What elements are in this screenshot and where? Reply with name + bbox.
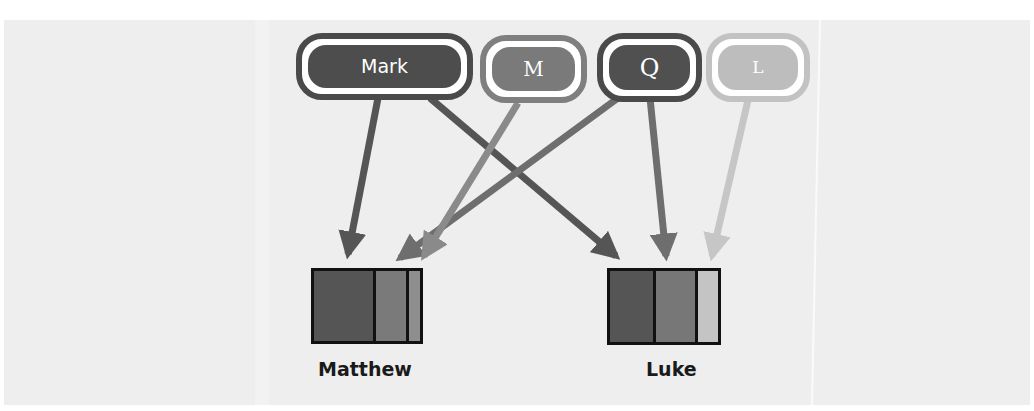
source-mark-fill: Mark — [308, 45, 461, 88]
gospel-luke-label: Luke — [646, 358, 697, 380]
source-q: Q — [597, 33, 702, 102]
gospel-luke-box — [607, 268, 721, 345]
luke-segment-l — [695, 271, 718, 342]
source-l-label: L — [752, 59, 763, 76]
arrow-q-to-luke — [650, 98, 666, 256]
gospel-matthew-label: Matthew — [318, 358, 412, 380]
gospel-matthew-box — [311, 268, 423, 344]
luke-segment-mark — [610, 271, 653, 342]
matthew-segment-m — [406, 271, 420, 341]
source-q-label: Q — [640, 56, 660, 80]
source-m: M — [480, 35, 587, 103]
source-m-label: M — [523, 59, 543, 79]
matthew-segment-q — [373, 271, 406, 341]
source-l-fill: L — [718, 45, 798, 90]
source-q-fill: Q — [609, 45, 690, 90]
source-mark-label: Mark — [361, 57, 408, 76]
arrow-mark-to-matthew — [348, 98, 378, 254]
luke-segment-q — [653, 271, 695, 342]
arrow-l-to-luke — [712, 100, 748, 256]
matthew-segment-mark — [314, 271, 373, 341]
source-m-fill: M — [492, 47, 575, 91]
source-mark: Mark — [296, 33, 473, 100]
source-l: L — [706, 33, 810, 102]
